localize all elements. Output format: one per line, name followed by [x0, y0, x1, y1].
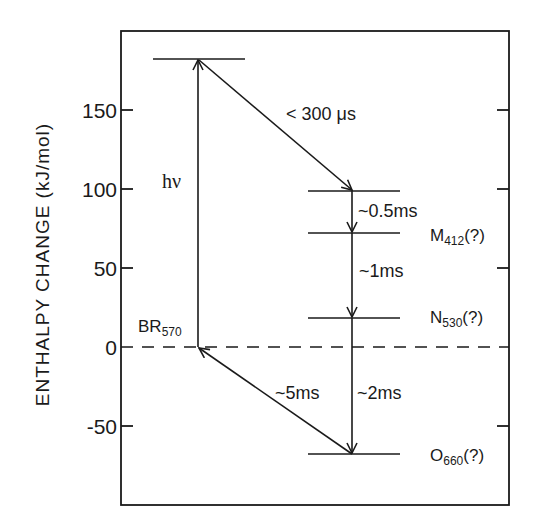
state-n530-suffix: (?)	[462, 308, 483, 327]
state-o660-sub: 660	[443, 454, 463, 468]
arrow-300us	[199, 60, 352, 190]
state-br570: BR570	[138, 318, 182, 338]
state-n530-sub: 530	[442, 316, 462, 330]
label-2ms: ~2ms	[357, 384, 402, 402]
ytick-100: 100	[57, 179, 117, 200]
label-5ms: ~5ms	[275, 384, 320, 402]
state-m412-sub: 412	[444, 234, 464, 248]
label-300us: < 300 μs	[286, 105, 356, 123]
label-05ms: ~0.5ms	[358, 202, 418, 220]
right-axis-ticks	[497, 110, 509, 426]
plot-frame	[121, 31, 509, 505]
state-m412: M412(?)	[430, 227, 485, 247]
ytick-0: 0	[57, 337, 117, 358]
state-o660-suffix: (?)	[463, 446, 484, 465]
ytick-50: 50	[57, 258, 117, 279]
ytick-150: 150	[57, 100, 117, 121]
state-br570-sub: 570	[162, 325, 182, 339]
left-axis-ticks	[121, 110, 133, 426]
state-n530: N530(?)	[430, 309, 483, 329]
y-axis-title: ENTHALPY CHANGE (kJ/mol)	[33, 70, 52, 460]
state-o660: O660(?)	[430, 447, 484, 467]
state-br570-main: BR	[138, 317, 162, 336]
state-o660-main: O	[430, 446, 443, 465]
energy-level-diagram: 150 100 50 0 -50 ENTHALPY CHANGE (kJ/mol…	[0, 0, 538, 532]
state-m412-main: M	[430, 226, 444, 245]
label-hv: hν	[162, 171, 181, 191]
label-1ms: ~1ms	[359, 262, 404, 280]
ytick-neg50: -50	[57, 416, 117, 437]
state-n530-main: N	[430, 308, 442, 327]
state-m412-suffix: (?)	[464, 226, 485, 245]
